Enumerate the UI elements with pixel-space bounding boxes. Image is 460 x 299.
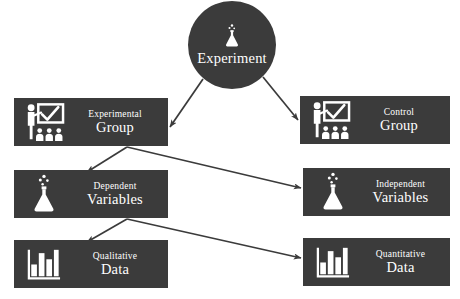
node-label: Qualitative Data <box>68 251 168 278</box>
diagram-canvas: Experiment Experimental <box>0 0 460 299</box>
node-label-line1: Control <box>354 107 444 117</box>
flask-icon <box>219 23 245 49</box>
hub-experiment[interactable]: Experiment <box>188 1 276 89</box>
node-label: Control Group <box>354 107 450 134</box>
node-label-line2: Data <box>68 262 162 278</box>
node-independent-variables[interactable]: Independent Variables <box>303 168 450 216</box>
node-label-line2: Data <box>357 260 444 276</box>
node-label-line1: Quantitative <box>357 249 444 259</box>
node-label: Independent Variables <box>357 179 450 206</box>
node-label-line1: Independent <box>357 179 444 189</box>
node-label: Experimental Group <box>68 109 168 136</box>
presenter-icon <box>20 98 68 146</box>
edge-experiment-to-control-group <box>263 77 298 120</box>
edge-experiment-to-experimental-group <box>170 79 203 127</box>
node-experimental-group[interactable]: Experimental Group <box>14 98 168 146</box>
node-label-line2: Group <box>68 120 162 136</box>
node-label: Dependent Variables <box>68 181 168 208</box>
edge-dependent-variables-to-qualitative-data <box>87 219 127 242</box>
bar-chart-icon <box>20 240 68 288</box>
flask-bubbles-icon <box>20 170 68 218</box>
node-control-group[interactable]: Control Group <box>300 96 450 144</box>
bar-chart-icon <box>309 238 357 286</box>
hub-label: Experiment <box>197 50 267 67</box>
edge-experimental-group-to-dependent-variables <box>87 147 127 172</box>
presenter-icon <box>306 96 354 144</box>
node-label-line2: Variables <box>68 192 162 208</box>
node-quantitative-data[interactable]: Quantitative Data <box>303 238 450 286</box>
flask-bubbles-icon <box>309 168 357 216</box>
node-label-line2: Variables <box>357 190 444 206</box>
node-label-line1: Qualitative <box>68 251 162 261</box>
node-dependent-variables[interactable]: Dependent Variables <box>14 170 168 218</box>
node-label-line1: Experimental <box>68 109 162 119</box>
node-label-line2: Group <box>354 118 444 134</box>
node-label-line1: Dependent <box>68 181 162 191</box>
node-label: Quantitative Data <box>357 249 450 276</box>
node-qualitative-data[interactable]: Qualitative Data <box>14 240 168 288</box>
